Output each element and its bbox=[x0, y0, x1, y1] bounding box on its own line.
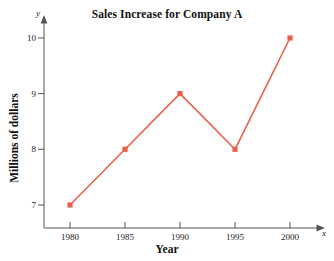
chart-container: Sales Increase for Company A Millions of… bbox=[0, 0, 334, 261]
x-axis-arrow bbox=[317, 225, 326, 232]
x-tick-marks bbox=[70, 222, 290, 228]
data-point-1980 bbox=[67, 202, 72, 207]
data-point-markers bbox=[67, 35, 292, 207]
data-point-1985 bbox=[122, 147, 127, 152]
data-point-1990 bbox=[177, 91, 182, 96]
axes-group bbox=[41, 15, 325, 231]
y-tick-marks bbox=[38, 38, 44, 205]
plot-area bbox=[0, 0, 334, 261]
y-axis-arrow bbox=[41, 15, 48, 24]
data-point-1995 bbox=[232, 147, 237, 152]
data-point-2000 bbox=[287, 35, 292, 40]
data-line-sales bbox=[70, 38, 290, 205]
